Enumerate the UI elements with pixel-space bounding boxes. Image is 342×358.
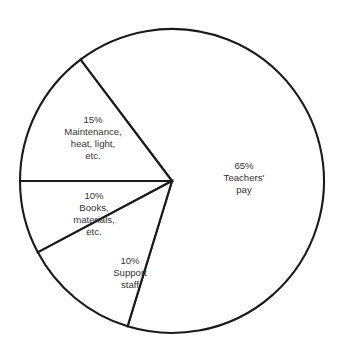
pie-slice-label-line: 10%	[84, 189, 104, 200]
pie-slice-label-line: Teachers'	[224, 172, 265, 183]
pie-slice-label-line: staff	[121, 279, 139, 290]
pie-slice-label-line: Books,	[79, 201, 108, 212]
pie-slice-label-line: materials,	[73, 214, 115, 225]
pie-slice-label-line: etc.	[85, 150, 100, 161]
pie-slice-label-line: pay	[236, 184, 252, 195]
pie-slice-label-line: Maintenance,	[64, 125, 122, 136]
pie-chart: 65%Teachers'pay15%Maintenance,heat, ligh…	[0, 0, 342, 358]
pie-slice-label-line: 65%	[234, 159, 254, 170]
pie-slice-label-line: Support	[113, 267, 147, 278]
pie-slice-label-line: heat, light,	[71, 138, 115, 149]
pie-slice-label-line: etc.	[86, 226, 101, 237]
pie-slice-label-line: 10%	[120, 254, 140, 265]
pie-chart-canvas: 65%Teachers'pay15%Maintenance,heat, ligh…	[0, 0, 342, 358]
pie-slice-label-line: 15%	[83, 113, 103, 124]
pie-slices-group	[20, 29, 324, 333]
